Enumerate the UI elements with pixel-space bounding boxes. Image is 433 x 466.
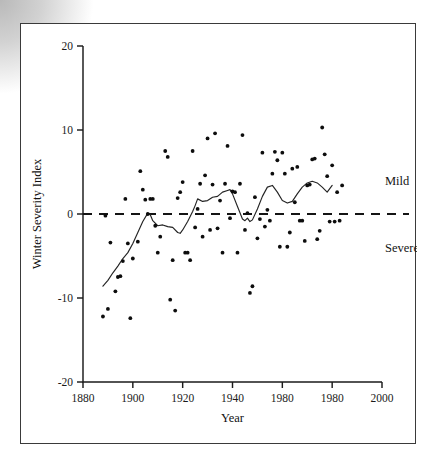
data-point <box>270 172 274 176</box>
data-point <box>141 188 145 192</box>
data-point <box>163 149 167 153</box>
data-point <box>280 151 284 155</box>
x-axis-title: Year <box>221 411 245 425</box>
data-point <box>261 151 265 155</box>
data-point <box>216 226 220 230</box>
figure-frame: 20100-10-201880190019201940198019802000Y… <box>20 23 416 444</box>
data-point <box>256 236 260 240</box>
data-point <box>295 165 299 169</box>
data-point <box>168 298 172 302</box>
data-point <box>128 316 132 320</box>
data-point <box>236 251 240 255</box>
data-point <box>338 219 342 223</box>
smoothed-trend-line <box>103 181 332 286</box>
y-tick-label: 10 <box>62 124 74 136</box>
annotation-severe: Severe <box>385 241 417 255</box>
data-point <box>308 183 312 187</box>
data-point <box>300 219 304 223</box>
data-point <box>275 158 279 162</box>
data-point <box>158 235 162 239</box>
data-point <box>268 219 272 223</box>
data-point <box>243 228 247 232</box>
data-point <box>203 173 207 177</box>
data-point <box>333 220 337 224</box>
data-point <box>146 212 150 216</box>
x-tick-label: 1920 <box>171 392 194 404</box>
data-point <box>156 251 160 255</box>
y-tick-label: -10 <box>58 292 74 304</box>
data-point <box>191 149 195 153</box>
data-point <box>226 144 230 148</box>
y-tick-label: 20 <box>62 40 74 52</box>
data-point <box>166 155 170 159</box>
data-point <box>104 214 108 218</box>
data-point <box>330 163 334 167</box>
data-point <box>109 241 113 245</box>
data-point <box>198 182 202 186</box>
chart-canvas: 20100-10-201880190019201940198019802000Y… <box>21 24 415 443</box>
data-point <box>313 157 317 161</box>
data-point <box>213 131 217 135</box>
data-point <box>283 172 287 176</box>
x-tick-label: 1980 <box>321 392 344 404</box>
x-tick-label: 1980 <box>271 392 294 404</box>
data-point <box>121 259 125 263</box>
data-point <box>101 315 105 319</box>
data-point <box>248 291 252 295</box>
data-point <box>278 245 282 249</box>
data-point <box>251 284 255 288</box>
data-point <box>151 197 155 201</box>
data-point <box>238 182 242 186</box>
data-point <box>193 226 197 230</box>
y-axis-title: Winter Severity Index <box>30 158 44 269</box>
data-point <box>315 237 319 241</box>
y-tick-label: -20 <box>58 376 74 388</box>
data-point <box>328 220 332 224</box>
annotation-mild: Mild <box>385 174 410 188</box>
data-point <box>176 196 180 200</box>
x-tick-label: 1940 <box>221 392 244 404</box>
data-point <box>138 169 142 173</box>
data-point <box>206 137 210 141</box>
data-point <box>285 245 289 249</box>
data-point <box>173 309 177 313</box>
data-point <box>153 224 157 228</box>
data-point <box>123 197 127 201</box>
data-point <box>340 184 344 188</box>
data-point <box>211 183 215 187</box>
data-point <box>188 258 192 262</box>
x-tick-label: 1900 <box>121 392 144 404</box>
data-point <box>208 228 212 232</box>
data-point <box>325 174 329 178</box>
data-point <box>265 208 269 212</box>
data-point <box>323 152 327 156</box>
data-point <box>223 182 227 186</box>
data-point <box>221 251 225 255</box>
data-point <box>171 258 175 262</box>
y-tick-label: 0 <box>67 208 73 220</box>
data-point <box>233 190 237 194</box>
data-point <box>201 235 205 239</box>
x-tick-label: 1880 <box>72 392 95 404</box>
data-point <box>320 126 324 130</box>
page-background: 20100-10-201880190019201940198019802000Y… <box>0 0 433 466</box>
data-point <box>258 217 262 221</box>
data-point <box>335 190 339 194</box>
x-tick-label: 2000 <box>371 392 394 404</box>
data-point <box>288 231 292 235</box>
data-point <box>303 239 307 243</box>
data-point <box>218 199 222 203</box>
data-point <box>126 242 130 246</box>
data-point <box>241 133 245 137</box>
data-point <box>293 200 297 204</box>
data-point <box>318 229 322 233</box>
data-point <box>196 207 200 211</box>
data-point <box>228 216 232 220</box>
data-point <box>136 240 140 244</box>
data-point <box>290 167 294 171</box>
data-point <box>273 150 277 154</box>
data-point <box>181 180 185 184</box>
data-point <box>131 257 135 261</box>
data-point <box>113 289 117 293</box>
data-point <box>246 211 250 215</box>
